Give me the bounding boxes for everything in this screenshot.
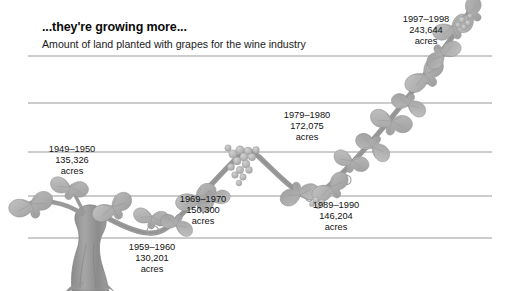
data-label-period: 1949–1950 — [24, 144, 120, 155]
data-label-1997-1998: 1997–1998 243,644 acres — [378, 14, 474, 48]
data-label-unit: acres — [24, 166, 120, 177]
data-label-period: 1979–1980 — [259, 110, 355, 121]
data-label-value: 150,300 — [155, 205, 251, 216]
data-label-1989-1990: 1989–1990 146,204 acres — [288, 200, 384, 234]
data-label-value: 172,075 — [259, 121, 355, 132]
page-title: ...they're growing more... — [42, 20, 187, 34]
data-label-period: 1989–1990 — [288, 200, 384, 211]
data-label-period: 1997–1998 — [378, 14, 474, 25]
infographic-chart: ...they're growing more... Amount of lan… — [0, 0, 514, 291]
data-label-unit: acres — [259, 132, 355, 143]
page-subtitle: Amount of land planted with grapes for t… — [42, 38, 306, 50]
data-label-value: 130,201 — [104, 253, 200, 264]
data-label-period: 1969–1970 — [155, 194, 251, 205]
data-label-value: 243,644 — [378, 25, 474, 36]
data-label-1949-1950: 1949–1950 135,326 acres — [24, 144, 120, 178]
data-label-unit: acres — [155, 216, 251, 227]
data-label-period: 1959–1960 — [104, 242, 200, 253]
data-label-1969-1970: 1969–1970 150,300 acres — [155, 194, 251, 228]
data-label-1959-1960: 1959–1960 130,201 acres — [104, 242, 200, 276]
data-label-unit: acres — [288, 222, 384, 233]
data-label-unit: acres — [378, 36, 474, 47]
data-label-value: 146,204 — [288, 211, 384, 222]
data-label-value: 135,326 — [24, 155, 120, 166]
data-label-1979-1980: 1979–1980 172,075 acres — [259, 110, 355, 144]
data-label-unit: acres — [104, 264, 200, 275]
